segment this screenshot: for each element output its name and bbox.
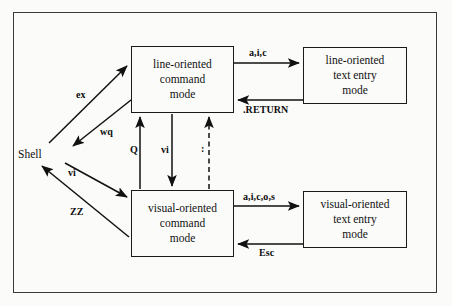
node-line-text-entry-line-1: line-oriented [326,53,385,68]
node-shell[interactable]: Shell [18,148,42,160]
edge-label-q: Q [130,144,138,155]
edge-label-aicos: a,i,c,o,s [243,191,275,202]
node-visual-oriented-text-entry-mode[interactable]: visual-oriented text entry mode [303,191,407,248]
node-line-command-line-3: mode [170,87,196,102]
node-line-command-line-1: line-oriented [153,57,212,72]
node-visual-text-entry-line-3: mode [342,227,368,242]
edge-label-vi-shell-to-visual: vi [68,167,76,178]
node-line-text-entry-line-3: mode [342,83,368,98]
edge-label-zz: ZZ [70,206,84,217]
edge-label-ex: ex [76,89,86,100]
edge-label-wq: wq [100,126,113,137]
edge-label-vi-line-to-visual: vi [161,144,169,155]
edge-label-aic: a,i,c [249,47,267,58]
node-visual-command-line-3: mode [170,231,196,246]
node-visual-text-entry-line-2: text entry [333,212,377,227]
node-visual-text-entry-line-1: visual-oriented [321,197,390,212]
edge-label-return: .RETURN [243,104,288,115]
node-visual-command-line-2: command [160,216,205,231]
node-shell-label: Shell [18,148,42,160]
node-visual-command-line-1: visual-oriented [148,201,217,216]
edge-label-esc: Esc [259,247,274,258]
node-line-oriented-text-entry-mode[interactable]: line-oriented text entry mode [303,47,407,104]
node-line-command-line-2: command [160,72,205,87]
node-visual-oriented-command-mode[interactable]: visual-oriented command mode [131,190,234,257]
node-line-oriented-command-mode[interactable]: line-oriented command mode [131,46,234,113]
node-line-text-entry-line-2: text entry [333,68,377,83]
diagram-canvas: line-oriented command mode --> Shell -->… [0,0,452,306]
edge-label-colon: : [201,143,204,154]
